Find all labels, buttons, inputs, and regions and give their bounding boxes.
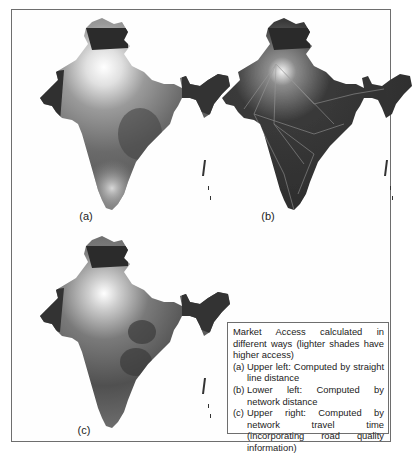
caption-text: Upper right: Computed by network travel … [247,407,384,453]
caption-intro: Market Access calculated in different wa… [233,326,384,361]
caption-tag: (b) [233,384,247,407]
map-panel-a [32,14,232,219]
map-panel-b [214,14,414,219]
caption-text: Lower left: Computed by network distance [247,384,384,407]
caption-text: Upper left: Computed by straight line di… [247,361,384,384]
panel-label-c: (c) [64,424,104,436]
caption-box: Market Access calculated in different wa… [227,322,389,434]
panel-label-a: (a) [66,210,106,222]
caption-item-c: (c) Upper right: Computed by network tra… [233,407,384,453]
map-panel-c [32,232,232,437]
caption-tag: (c) [233,407,247,453]
caption-item-b: (b) Lower left: Computed by network dist… [233,384,384,407]
caption-tag: (a) [233,361,247,384]
panel-label-b: (b) [248,210,288,222]
caption-item-a: (a) Upper left: Computed by straight lin… [233,361,384,384]
